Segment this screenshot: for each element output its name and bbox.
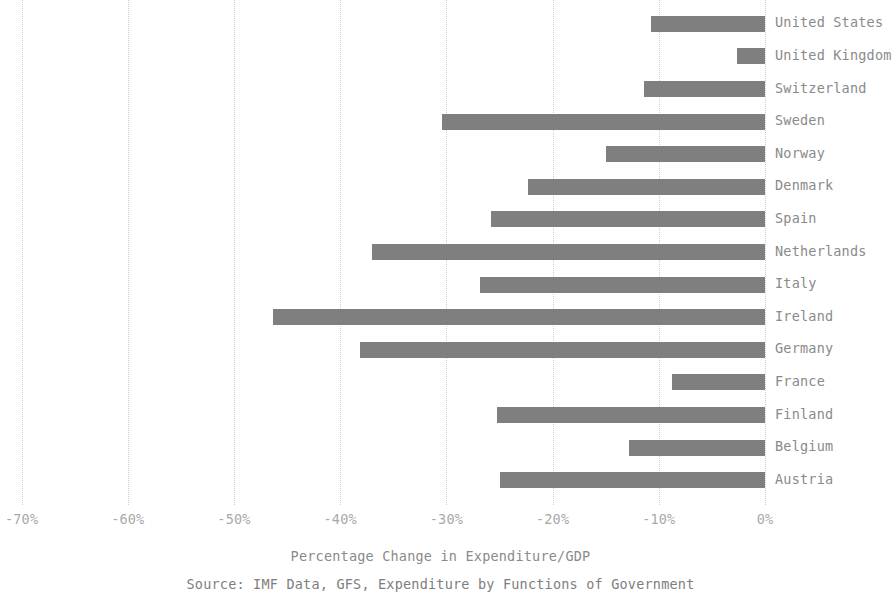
source-note: Source: IMF Data, GFS, Expenditure by Fu…: [0, 576, 881, 592]
bar-row: [0, 138, 881, 170]
category-label-germany: Germany: [775, 343, 833, 357]
x-tick-label: -10%: [642, 513, 675, 527]
bar-row: [0, 106, 881, 138]
bar-row: [0, 236, 881, 268]
x-tick-label: -60%: [111, 513, 144, 527]
bar-austria[interactable]: [500, 472, 766, 488]
bar-france[interactable]: [672, 374, 765, 390]
bar-belgium[interactable]: [629, 440, 765, 456]
x-axis-title: Percentage Change in Expenditure/GDP: [0, 548, 881, 564]
x-tick-label: -20%: [536, 513, 569, 527]
category-label-italy: Italy: [775, 277, 817, 291]
x-axis: -70%-60%-50%-40%-30%-20%-10%0%: [0, 505, 881, 535]
category-label-france: France: [775, 375, 825, 389]
category-label-austria: Austria: [775, 473, 833, 487]
bar-germany[interactable]: [360, 342, 765, 358]
x-tick-label: -70%: [5, 513, 38, 527]
category-label-finland: Finland: [775, 408, 833, 422]
bar-spain[interactable]: [491, 211, 765, 227]
bar-united-states[interactable]: [651, 16, 765, 32]
bar-switzerland[interactable]: [644, 81, 765, 97]
bar-row: [0, 399, 881, 431]
bar-row: [0, 204, 881, 236]
bar-ireland[interactable]: [273, 309, 765, 325]
bar-row: [0, 432, 881, 464]
bar-row: [0, 8, 881, 40]
bar-united-kingdom[interactable]: [737, 48, 765, 64]
x-tick-label: 0%: [757, 513, 774, 527]
x-tick-label: -40%: [324, 513, 357, 527]
category-label-norway: Norway: [775, 147, 825, 161]
category-label-spain: Spain: [775, 212, 817, 226]
bar-finland[interactable]: [497, 407, 765, 423]
bar-italy[interactable]: [480, 277, 765, 293]
plot-area: United StatesUnited KingdomSwitzerlandSw…: [0, 0, 881, 505]
category-label-denmark: Denmark: [775, 180, 833, 194]
bar-row: [0, 41, 881, 73]
bar-row: [0, 464, 881, 496]
category-label-united-kingdom: United Kingdom: [775, 49, 892, 63]
category-label-switzerland: Switzerland: [775, 82, 867, 96]
category-label-ireland: Ireland: [775, 310, 833, 324]
bar-sweden[interactable]: [442, 114, 765, 130]
x-tick-label: -30%: [430, 513, 463, 527]
bar-denmark[interactable]: [528, 179, 765, 195]
bar-netherlands[interactable]: [372, 244, 765, 260]
bar-norway[interactable]: [606, 146, 765, 162]
bar-row: [0, 334, 881, 366]
category-label-belgium: Belgium: [775, 440, 833, 454]
category-label-sweden: Sweden: [775, 114, 825, 128]
category-label-united-states: United States: [775, 17, 883, 31]
bar-row: [0, 367, 881, 399]
category-label-netherlands: Netherlands: [775, 245, 867, 259]
bar-row: [0, 269, 881, 301]
bar-row: [0, 73, 881, 105]
x-tick-label: -50%: [217, 513, 250, 527]
bar-row: [0, 171, 881, 203]
bar-row: [0, 301, 881, 333]
